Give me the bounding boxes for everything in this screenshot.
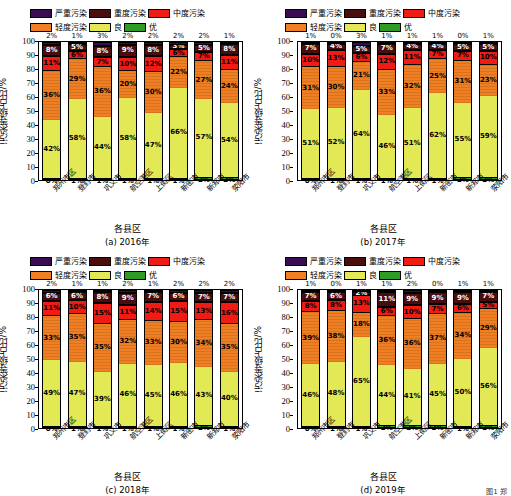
stacked-bar[interactable]: 2%57%27%7%5%2% <box>194 42 213 180</box>
y-tick-label: 60 <box>27 93 36 101</box>
stacked-bar[interactable]: 1%66%22%6%3%2% <box>169 42 188 180</box>
segment-value-label: 4% <box>406 43 418 50</box>
segment-value-label: 40% <box>221 395 238 402</box>
segment-value-label: 48% <box>328 390 345 397</box>
segment-value-label: 11% <box>404 54 421 61</box>
y-tick-label: 10 <box>27 163 36 171</box>
segment-value-label: 44% <box>378 392 395 399</box>
stacked-bar[interactable]: 0%51%31%10%7%1% <box>301 42 320 180</box>
stacked-bar[interactable]: 1%48%38%8%6%0% <box>327 290 346 428</box>
legend-swatch-icon <box>379 271 401 280</box>
bar-segment-严重污染: 2% <box>118 290 137 293</box>
segment-value-label: 33% <box>378 89 395 96</box>
stacked-bar[interactable]: 1%50%34%6%9%1% <box>453 290 472 428</box>
legend-swatch-icon <box>30 271 52 280</box>
stacked-bar[interactable]: 1%39%35%15%8%1% <box>93 290 112 428</box>
bar-segment-严重污染: 1% <box>220 42 239 44</box>
y-tick-mark <box>290 125 293 126</box>
legend-label: 轻度污染 <box>310 271 342 280</box>
y-tick-mark <box>290 303 293 304</box>
legend-label: 严重污染 <box>55 257 87 266</box>
stacked-bar[interactable]: 2%45%37%7%9%0% <box>428 290 447 428</box>
bar-segment-良: 62% <box>428 93 447 178</box>
stacked-bar[interactable]: 0%42%36%11%8%2% <box>42 42 61 180</box>
segment-value-label: 9% <box>122 47 134 54</box>
legend-item-zhongdu_mid: 中度污染 <box>403 7 460 20</box>
bar-segment-重度污染: 5% <box>194 45 213 52</box>
bar-segment-中度污染: 7% <box>428 50 447 60</box>
y-tick-label: 40 <box>282 369 291 377</box>
stacked-bar[interactable]: 2%41%36%10%9%2% <box>403 290 422 428</box>
stacked-bar[interactable]: 1%51%32%11%4%1% <box>403 42 422 180</box>
bar-segment-中度污染: 15% <box>169 301 188 322</box>
stacked-bar[interactable]: 2%56%29%5%7%1% <box>479 290 498 428</box>
stacked-bar[interactable]: 1%46%32%11%9%2% <box>118 290 137 428</box>
stacked-bar[interactable]: 2%59%23%10%5%1% <box>479 42 498 180</box>
stacked-bar[interactable]: 1%64%21%6%5%3% <box>352 42 371 180</box>
segment-value-label: 47% <box>145 142 162 149</box>
legend-swatch-icon <box>124 23 146 32</box>
bar-segment-重度污染: 2% <box>352 292 371 295</box>
stacked-bar[interactable]: 1%44%36%7%8%3% <box>93 42 112 180</box>
y-tick-label: 50 <box>282 355 291 363</box>
stacked-bar[interactable]: 1%46%30%15%6%2% <box>169 290 188 428</box>
bar-segment-严重污染: 1% <box>479 42 498 44</box>
segment-value-label: 8% <box>96 48 108 55</box>
stacked-bar[interactable]: 1%58%29%6%5%1% <box>68 42 87 180</box>
segment-value-label: 58% <box>119 135 136 142</box>
legend-label: 轻度污染 <box>310 23 342 32</box>
legend-swatch-icon <box>403 9 425 18</box>
segment-value-label: 25% <box>429 73 446 80</box>
bar-segment-轻度污染: 38% <box>327 311 346 362</box>
segment-value-label: 34% <box>196 340 213 347</box>
segment-value-label: 1% <box>381 32 392 40</box>
bar-segment-中度污染: 10% <box>301 54 320 68</box>
y-tick-label: 80 <box>27 313 36 321</box>
bar-segment-中度污染: 6% <box>352 53 371 61</box>
legend-swatch-icon <box>89 271 111 280</box>
stacked-bar[interactable]: 1%45%33%14%7%1% <box>144 290 163 428</box>
stacked-bar[interactable]: 1%47%35%10%6%1% <box>68 290 87 428</box>
stacked-bar[interactable]: 2%55%31%7%5%0% <box>453 42 472 180</box>
legend-swatch-icon <box>148 257 170 266</box>
segment-value-label: 10% <box>480 54 497 61</box>
bar-segment-重度污染: 6% <box>169 293 188 301</box>
bar-segment-严重污染: 2% <box>169 290 188 293</box>
bar-segment-良: 40% <box>220 372 239 426</box>
legend: 严重污染重度污染中度污染轻度污染良优 <box>285 255 485 283</box>
stacked-bar[interactable]: 1%65%18%13%2%1% <box>352 290 371 428</box>
stacked-bar[interactable]: 2%44%36%6%11%1% <box>377 290 396 428</box>
bar-segment-轻度污染: 37% <box>428 314 447 364</box>
stacked-bar[interactable]: 0%49%33%11%6%2% <box>42 290 61 428</box>
legend-swatch-icon <box>30 23 52 32</box>
bar-segment-严重污染: 0% <box>453 42 472 44</box>
stacked-bar[interactable]: 1%47%30%12%8%2% <box>144 42 163 180</box>
segment-value-label: 7% <box>198 53 210 60</box>
legend-label: 优 <box>149 23 157 32</box>
segment-value-label: 24% <box>221 83 238 90</box>
bar-segment-重度污染: 7% <box>220 293 239 303</box>
bar-segment-轻度污染: 36% <box>93 67 112 117</box>
y-tick-label: 100 <box>22 37 35 45</box>
legend-item-zhongdu_mid: 中度污染 <box>148 7 205 20</box>
segment-value-label: 57% <box>196 134 213 141</box>
y-tick-label: 80 <box>282 65 291 73</box>
stacked-bar[interactable]: 1%58%20%10%9%2% <box>118 42 137 180</box>
stacked-bar[interactable]: 1%40%35%16%7%2% <box>220 290 239 428</box>
stacked-bar[interactable]: 0%46%39%8%7%1% <box>301 290 320 428</box>
stacked-bar[interactable]: 2%54%24%11%8%1% <box>220 42 239 180</box>
legend-label: 重度污染 <box>369 9 401 18</box>
stacked-bar[interactable]: 2%43%34%13%7%2% <box>194 290 213 428</box>
legend-swatch-icon <box>89 9 111 18</box>
bar-segment-中度污染: 11% <box>42 56 61 71</box>
stacked-bar[interactable]: 1%52%30%13%4%0% <box>327 42 346 180</box>
stacked-bar[interactable]: 1%62%25%7%4%1% <box>428 42 447 180</box>
y-axis-title: 污染等级占比/% <box>0 289 8 429</box>
stacked-bar[interactable]: 1%46%33%12%7%1% <box>377 42 396 180</box>
segment-value-label: 33% <box>145 339 162 346</box>
segment-value-label: 36% <box>378 337 395 344</box>
y-tick-label: 10 <box>27 411 36 419</box>
segment-value-label: 45% <box>429 391 446 398</box>
segment-value-label: 4% <box>330 43 342 50</box>
segment-value-label: 1% <box>97 280 108 288</box>
